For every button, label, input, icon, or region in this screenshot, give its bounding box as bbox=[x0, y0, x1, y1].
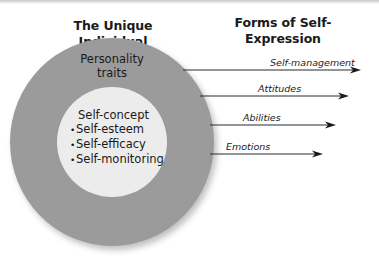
expression-arrows bbox=[0, 0, 379, 264]
arrow-label-attitudes: Attitudes bbox=[258, 83, 301, 94]
arrow-label-emotions: Emotions bbox=[226, 141, 270, 152]
arrow-label-abilities: Abilities bbox=[243, 112, 281, 123]
arrow-label-self-management: Self-management bbox=[270, 57, 355, 68]
